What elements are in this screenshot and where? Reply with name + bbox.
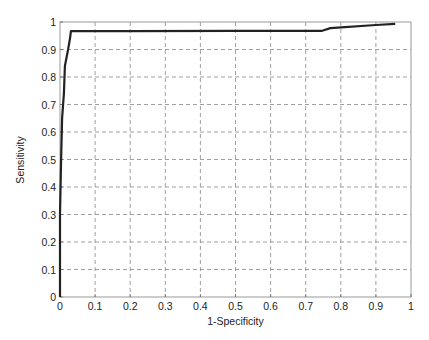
roc-chart: 00.10.20.30.40.50.60.70.80.91 00.10.20.3… (0, 0, 429, 340)
x-axis-label: 1-Specificity (207, 315, 264, 327)
x-tick-label: 0.9 (369, 300, 384, 312)
x-tick-label: 0.7 (298, 300, 313, 312)
y-tick-label: 0 (50, 291, 56, 303)
x-tick-label: 1 (408, 300, 414, 312)
x-tick-label: 0.2 (123, 300, 138, 312)
x-tick-label: 0.5 (228, 300, 243, 312)
y-tick-label: 0.6 (41, 126, 56, 138)
x-tick-label: 0.3 (158, 300, 173, 312)
x-tick-label: 0.6 (263, 300, 278, 312)
x-tick-label: 0.8 (333, 300, 348, 312)
y-tick-label: 0.3 (41, 209, 56, 221)
y-tick-label: 0.9 (41, 44, 56, 56)
roc-curve-line (60, 24, 395, 297)
y-tick-label: 0.7 (41, 99, 56, 111)
y-axis-label: Sensitivity (14, 136, 26, 184)
y-tick-label: 0.4 (41, 181, 56, 193)
grid-lines (60, 22, 411, 297)
x-tick-label: 0.1 (88, 300, 103, 312)
y-tick-label: 0.8 (41, 71, 56, 83)
y-tick-label: 1 (50, 16, 56, 28)
y-tick-label: 0.5 (41, 154, 56, 166)
x-tick-label: 0 (57, 300, 63, 312)
y-tick-label: 0.2 (41, 236, 56, 248)
y-tick-label: 0.1 (41, 264, 56, 276)
x-tick-label: 0.4 (193, 300, 208, 312)
